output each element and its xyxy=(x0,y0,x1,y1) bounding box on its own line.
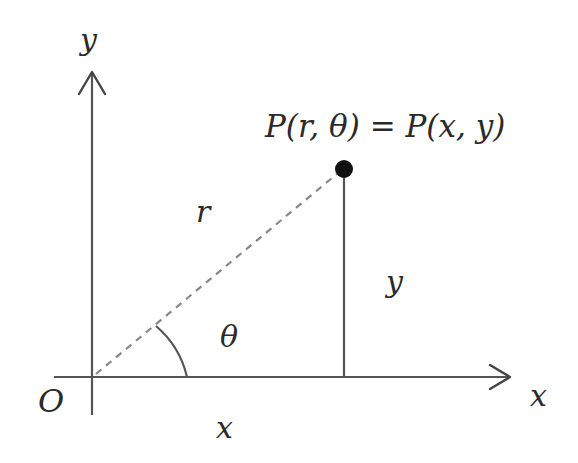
angle-arc xyxy=(156,326,187,377)
radius-line xyxy=(96,173,338,374)
radius-label: r xyxy=(196,194,212,229)
x-projection-label: x xyxy=(216,410,233,445)
x-axis-label: x xyxy=(530,378,547,413)
y-projection-label: y xyxy=(384,264,404,299)
point-p xyxy=(335,160,353,178)
point-label: P(r, θ) = P(x, y) xyxy=(264,108,505,144)
origin-label: O xyxy=(38,382,64,420)
y-axis-label: y xyxy=(78,22,98,57)
polar-coordinates-diagram: y x O r θ x y P(r, θ) = P(x, y) xyxy=(0,0,578,463)
angle-label: θ xyxy=(220,319,238,354)
